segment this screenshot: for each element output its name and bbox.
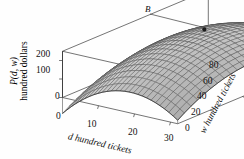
point-b-marker [202, 27, 206, 31]
point-b-label: B [145, 5, 151, 14]
z-axis-label-line2: hundred dollars [19, 35, 29, 107]
surface-plot-figure: 200 100 0 P(d, w) hundred dollars 0 10 2… [0, 0, 244, 159]
y-tick-80: 80 [209, 61, 219, 71]
x-tick-0: 0 [56, 112, 61, 122]
z-axis-label: P(d, w) hundred dollars [9, 35, 29, 107]
z-tick-200: 200 [36, 50, 50, 60]
z-tick-100: 100 [36, 66, 50, 76]
x-tick-10: 10 [87, 120, 97, 130]
y-tick-40: 40 [197, 92, 207, 102]
x-tick-20: 20 [128, 128, 138, 138]
y-tick-0: 0 [185, 124, 190, 134]
z-tick-0: 0 [55, 92, 60, 102]
y-tick-60: 60 [203, 77, 213, 87]
y-tick-20: 20 [191, 108, 201, 118]
z-axis-label-line1: P(d, w) [9, 35, 19, 107]
x-tick-30: 30 [164, 134, 174, 144]
